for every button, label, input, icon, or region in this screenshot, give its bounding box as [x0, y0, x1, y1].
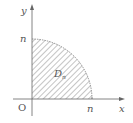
coordinate-diagram: y n O n x Dn [0, 0, 133, 123]
origin-label: O [18, 102, 26, 113]
y-axis-label: y [20, 5, 27, 16]
region-label-subscript: n [62, 73, 66, 80]
x-axis-arrow-icon [119, 97, 125, 101]
region-label-main: D [53, 68, 62, 79]
x-axis-label: x [119, 103, 125, 114]
y-axis-arrow-icon [30, 4, 34, 10]
x-intercept-label: n [87, 103, 93, 114]
y-intercept-label: n [20, 33, 26, 44]
